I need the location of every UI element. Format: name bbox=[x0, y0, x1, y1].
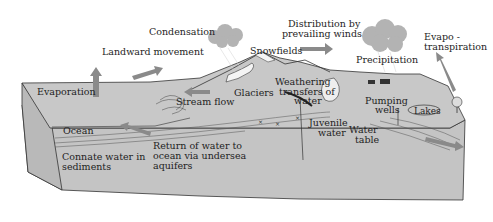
label-lakes: Lakes bbox=[414, 106, 441, 116]
label-ocean: Ocean bbox=[63, 126, 94, 136]
label-evapotranspiration-line2: transpiration bbox=[424, 42, 487, 52]
label-return-line3: aquifers bbox=[153, 161, 192, 171]
svg-text:×: × bbox=[258, 118, 263, 125]
hydrologic-cycle-diagram: ××× bbox=[0, 0, 493, 222]
label-landward-movement: Landward movement bbox=[102, 47, 204, 57]
label-connate-line2: sediments bbox=[62, 162, 111, 172]
label-juvenile-line2: water bbox=[318, 128, 346, 138]
label-weathering-line3: water bbox=[294, 96, 322, 106]
label-condensation: Condensation bbox=[149, 27, 215, 37]
arrow-landward-icon bbox=[132, 66, 163, 80]
label-distribution-line2: prevailing winds bbox=[282, 29, 362, 39]
arrow-distribution-icon bbox=[300, 43, 333, 55]
cloud-precipitation bbox=[362, 19, 407, 52]
label-snowfields: Snowfields bbox=[250, 46, 302, 56]
label-stream-flow: Stream flow bbox=[176, 97, 234, 107]
svg-text:×: × bbox=[295, 114, 300, 121]
label-glaciers: Glaciers bbox=[234, 88, 274, 98]
label-evaporation: Evaporation bbox=[37, 87, 96, 97]
label-precipitation: Precipitation bbox=[356, 55, 418, 65]
label-water-table-line2: table bbox=[355, 135, 379, 145]
svg-text:×: × bbox=[275, 120, 280, 127]
label-pumping-line2: wells bbox=[375, 105, 400, 115]
